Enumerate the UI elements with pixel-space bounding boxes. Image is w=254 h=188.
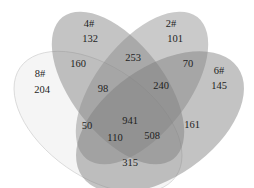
- region-8-2: 50: [82, 120, 93, 131]
- venn-diagram: 8# 4# 2# 6# 204 132 101 145 160 253 70 9…: [0, 0, 254, 188]
- region-only-8: 204: [34, 84, 51, 95]
- region-8-4-6: 110: [107, 132, 122, 143]
- region-8-6: 315: [122, 157, 138, 168]
- region-only-4: 132: [82, 33, 98, 44]
- region-4-6: 161: [184, 119, 200, 130]
- region-only-2: 101: [167, 33, 183, 44]
- set-2-label: 2#: [166, 18, 177, 29]
- region-8-4: 160: [70, 58, 86, 69]
- region-2-6: 70: [183, 58, 194, 69]
- region-4-2: 253: [125, 52, 141, 63]
- set-4-label: 4#: [84, 18, 95, 29]
- region-all: 941: [122, 115, 138, 126]
- region-8-4-2: 98: [98, 83, 109, 94]
- region-only-6: 145: [211, 80, 227, 91]
- region-4-2-6: 240: [153, 80, 169, 91]
- region-8-2-6: 508: [144, 130, 160, 141]
- set-8-label: 8#: [35, 68, 46, 79]
- set-6-label: 6#: [214, 65, 225, 76]
